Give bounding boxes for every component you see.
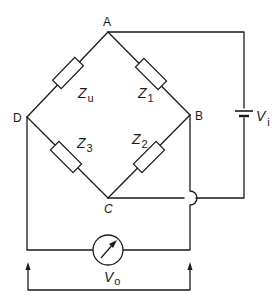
node-label-c: C [104, 202, 113, 216]
source-loop [108, 32, 253, 198]
output-loop [27, 115, 197, 265]
impedance-zu [53, 57, 84, 88]
bridge-wires [27, 32, 190, 198]
label-z3: Z3 [76, 135, 93, 154]
resistor-icon [53, 57, 84, 88]
wire-source-to-c [196, 118, 244, 198]
node-label-d: D [13, 111, 22, 125]
node-label-a: A [103, 15, 111, 29]
label-z2: Z2 [131, 131, 148, 150]
wire-a-to-source [108, 32, 244, 108]
arrow-up-icon [188, 262, 193, 270]
bridge-circuit-diagram: A D B C Zu Z1 Z3 Z2 Vi Vo [0, 0, 279, 306]
label-z1: Z1 [137, 85, 154, 104]
label-vo: Vo [104, 269, 120, 287]
label-zu: Zu [77, 85, 94, 104]
node-label-b: B [195, 109, 203, 123]
arrow-up-icon [26, 262, 31, 270]
battery-icon [235, 111, 253, 116]
meter-icon [93, 235, 123, 265]
label-vi: Vi [256, 108, 270, 128]
